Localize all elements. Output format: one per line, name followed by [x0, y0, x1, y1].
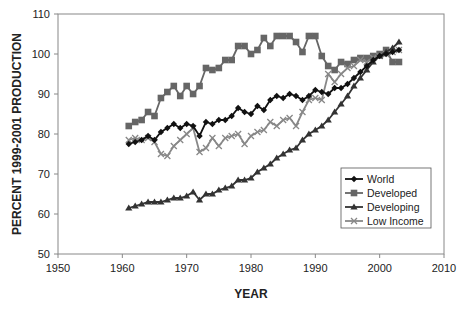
square-marker-icon [254, 47, 261, 54]
square-marker-icon [132, 119, 139, 126]
square-marker-icon [177, 93, 184, 100]
square-marker-icon [228, 57, 235, 64]
square-marker-icon [235, 43, 242, 50]
square-marker-icon [216, 65, 223, 72]
square-marker-icon [389, 59, 396, 66]
y-tick-label: 110 [32, 8, 50, 20]
square-marker-icon [325, 63, 332, 70]
square-marker-icon [190, 91, 197, 98]
square-marker-icon [299, 49, 306, 56]
x-tick-label: 2000 [367, 262, 391, 274]
x-tick-label: 2010 [432, 262, 456, 274]
legend: WorldDevelopedDevelopingLow Income [341, 168, 431, 228]
x-tick-label: 1980 [239, 262, 263, 274]
square-marker-icon [138, 117, 145, 124]
square-marker-icon [145, 109, 152, 116]
x-axis-title: YEAR [234, 287, 268, 301]
y-tick-label: 90 [38, 88, 50, 100]
square-marker-icon [338, 59, 345, 66]
square-marker-icon [203, 65, 210, 72]
square-marker-icon [209, 67, 216, 74]
y-axis-title: PERCENT 1999-2001 PRODUCTION [10, 33, 24, 235]
x-tick-label: 1990 [303, 262, 327, 274]
square-marker-icon [196, 83, 203, 90]
square-marker-icon [318, 53, 325, 60]
square-marker-icon [286, 33, 293, 40]
y-tick-label: 50 [38, 248, 50, 260]
y-tick-label: 80 [38, 128, 50, 140]
line-chart: PERCENT 1999-2001 PRODUCTION 19501960197… [0, 0, 463, 313]
square-marker-icon [151, 113, 158, 120]
y-tick-label: 60 [38, 208, 50, 220]
square-marker-icon [351, 57, 358, 64]
square-marker-icon [222, 57, 229, 64]
square-marker-icon [293, 39, 300, 46]
square-marker-icon [280, 33, 287, 40]
y-axis-title-text: PERCENT 1999-2001 PRODUCTION [10, 33, 24, 235]
square-marker-icon [125, 123, 132, 130]
square-marker-icon [261, 35, 268, 42]
x-tick-label: 1970 [174, 262, 198, 274]
square-marker-icon [158, 95, 165, 102]
x-tick-label: 1950 [46, 262, 70, 274]
square-marker-icon [183, 83, 190, 90]
square-marker-icon [273, 33, 280, 40]
x-tick-label: 1960 [110, 262, 134, 274]
square-marker-icon [312, 33, 319, 40]
square-marker-icon [396, 59, 403, 66]
y-tick-label: 70 [38, 168, 50, 180]
square-marker-icon [267, 43, 274, 50]
square-marker-icon [171, 83, 178, 90]
square-marker-icon [164, 89, 171, 96]
square-marker-icon [331, 67, 338, 74]
legend-label: Developed [367, 187, 417, 199]
y-tick-label: 100 [32, 48, 50, 60]
legend-label: Developing [367, 201, 420, 213]
square-marker-icon [241, 43, 248, 50]
square-marker-icon [306, 33, 313, 40]
legend-label: World [367, 173, 394, 185]
square-marker-icon [351, 190, 358, 197]
legend-label: Low Income [367, 215, 424, 227]
square-marker-icon [248, 51, 255, 58]
